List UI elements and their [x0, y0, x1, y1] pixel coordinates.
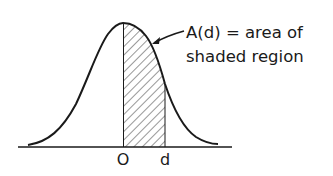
d-label: d	[160, 150, 170, 169]
normal-curve-diagram: A(d) = area of shaded region O d	[0, 0, 333, 176]
annotation-line-2: shaded region	[186, 47, 304, 66]
arrow-icon	[152, 31, 184, 44]
annotation-line-1: A(d) = area of	[186, 23, 304, 42]
origin-label: O	[117, 150, 130, 169]
